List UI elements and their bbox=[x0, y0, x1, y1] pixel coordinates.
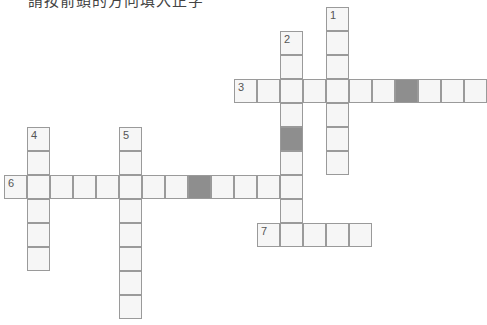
crossword-cell[interactable] bbox=[27, 199, 50, 223]
crossword-cell[interactable] bbox=[326, 103, 349, 127]
clue-number: 7 bbox=[261, 225, 267, 237]
crossword-cell[interactable] bbox=[27, 151, 50, 175]
crossword-cell[interactable] bbox=[349, 223, 372, 247]
crossword-cell[interactable] bbox=[234, 175, 257, 199]
crossword-cell[interactable] bbox=[119, 175, 142, 199]
crossword-cell[interactable]: 6 bbox=[4, 175, 27, 199]
clue-number: 6 bbox=[8, 177, 14, 189]
crossword-cell[interactable] bbox=[326, 55, 349, 79]
clue-number: 2 bbox=[284, 33, 290, 45]
crossword-cell[interactable]: 3 bbox=[234, 79, 257, 103]
crossword-cell[interactable] bbox=[280, 151, 303, 175]
crossword-cell[interactable] bbox=[119, 151, 142, 175]
crossword-cell[interactable] bbox=[257, 79, 280, 103]
crossword-cell[interactable] bbox=[27, 175, 50, 199]
crossword-cell[interactable] bbox=[96, 175, 119, 199]
crossword-cell[interactable] bbox=[326, 151, 349, 175]
crossword-cell[interactable]: 7 bbox=[257, 223, 280, 247]
clue-number: 3 bbox=[238, 81, 244, 93]
crossword-cell[interactable] bbox=[349, 79, 372, 103]
crossword-cell[interactable] bbox=[464, 79, 487, 103]
crossword-cell[interactable] bbox=[326, 127, 349, 151]
crossword-cell[interactable] bbox=[303, 223, 326, 247]
crossword-cell[interactable] bbox=[326, 31, 349, 55]
crossword-cell[interactable] bbox=[119, 223, 142, 247]
crossword-cell[interactable] bbox=[73, 175, 96, 199]
crossword-cell[interactable] bbox=[372, 79, 395, 103]
crossword-cell[interactable] bbox=[165, 175, 188, 199]
crossword-cell[interactable]: 2 bbox=[280, 31, 303, 55]
crossword-cell[interactable] bbox=[441, 79, 464, 103]
crossword-cell[interactable] bbox=[303, 79, 326, 103]
crossword-cell[interactable] bbox=[142, 175, 165, 199]
clue-number: 1 bbox=[330, 9, 336, 21]
crossword-cell[interactable]: 1 bbox=[326, 7, 349, 31]
crossword-cell[interactable] bbox=[50, 175, 73, 199]
crossword-cell[interactable]: 4 bbox=[27, 127, 50, 151]
crossword-cell[interactable] bbox=[119, 247, 142, 271]
crossword-cell[interactable] bbox=[280, 199, 303, 223]
crossword-cell[interactable] bbox=[280, 223, 303, 247]
crossword-cell[interactable] bbox=[418, 79, 441, 103]
crossword-block-cell bbox=[395, 79, 418, 103]
crossword-block-cell bbox=[280, 127, 303, 151]
crossword-cell[interactable] bbox=[119, 295, 142, 319]
crossword-cell[interactable] bbox=[326, 223, 349, 247]
crossword-cell[interactable]: 5 bbox=[119, 127, 142, 151]
crossword-cell[interactable] bbox=[280, 175, 303, 199]
crossword-cell[interactable] bbox=[27, 247, 50, 271]
crossword-cell[interactable] bbox=[326, 79, 349, 103]
clue-number: 5 bbox=[123, 129, 129, 141]
crossword-block-cell bbox=[188, 175, 211, 199]
crossword-cell[interactable] bbox=[257, 175, 280, 199]
crossword-cell[interactable] bbox=[280, 55, 303, 79]
crossword-grid: 1234567 bbox=[0, 0, 487, 325]
crossword-cell[interactable] bbox=[119, 271, 142, 295]
crossword-cell[interactable] bbox=[119, 199, 142, 223]
crossword-cell[interactable] bbox=[280, 79, 303, 103]
crossword-cell[interactable] bbox=[280, 103, 303, 127]
crossword-cell[interactable] bbox=[27, 223, 50, 247]
crossword-cell[interactable] bbox=[211, 175, 234, 199]
clue-number: 4 bbox=[31, 129, 37, 141]
